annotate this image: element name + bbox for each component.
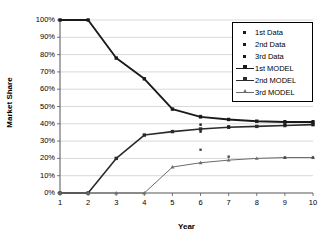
legend-marker-icon: [235, 62, 255, 74]
legend-marker-icon: [235, 26, 255, 38]
legend-item-label: 3rd Data: [255, 52, 284, 61]
y-axis-title: Market Share: [2, 0, 16, 205]
legend-item-label: 1st MODEL: [255, 64, 294, 73]
data-point: [199, 149, 201, 151]
y-tick-label: 60%: [16, 85, 58, 93]
x-tick-label: 1: [50, 198, 70, 207]
legend-item-3rd-data[interactable]: 3rd Data: [235, 50, 309, 62]
series-line: [60, 125, 313, 193]
x-tick-label: 9: [275, 198, 295, 207]
legend-item-label: 2nd MODEL: [255, 76, 296, 85]
y-tick-label: 20%: [16, 154, 58, 162]
data-marker: [255, 120, 258, 123]
y-tick-label: 40%: [16, 120, 58, 128]
legend-item-label: 2nd Data: [255, 40, 285, 49]
legend-item-2nd-model[interactable]: 2nd MODEL: [235, 74, 309, 86]
y-tick-label: 0%: [16, 189, 58, 197]
y-tick-label: 80%: [16, 51, 58, 59]
x-tick-label: 5: [162, 198, 182, 207]
x-axis-tick-labels: 12345678910: [60, 198, 313, 212]
y-tick-label: 30%: [16, 137, 58, 145]
y-tick-label: 10%: [16, 172, 58, 180]
data-point: [312, 120, 314, 122]
legend-item-1st-model[interactable]: 1st MODEL: [235, 62, 309, 74]
data-point: [312, 123, 314, 125]
x-tick-label: 10: [303, 198, 323, 207]
x-tick-label: 8: [247, 198, 267, 207]
data-marker: [171, 107, 174, 110]
data-marker: [143, 133, 146, 136]
x-tick-label: 2: [78, 198, 98, 207]
legend-marker-icon: [235, 74, 255, 86]
data-marker: [115, 56, 118, 59]
x-tick-label: 6: [191, 198, 211, 207]
data-marker: [115, 157, 118, 160]
series-line: [60, 158, 313, 193]
x-tick-label: 3: [106, 198, 126, 207]
legend-marker-icon: [235, 50, 255, 62]
data-point: [284, 123, 286, 125]
x-tick-label: 7: [219, 198, 239, 207]
legend-marker-icon: [235, 86, 255, 98]
data-marker: [199, 127, 202, 130]
data-marker: [171, 130, 174, 133]
data-marker: [86, 18, 89, 21]
data-point: [227, 155, 229, 157]
legend-item-1st-data[interactable]: 1st Data: [235, 26, 309, 38]
y-axis-title-text: Market Share: [5, 77, 14, 127]
legend-item-label: 3rd MODEL: [255, 88, 295, 97]
data-point: [199, 130, 201, 132]
data-point: [284, 120, 286, 122]
data-marker: [143, 77, 146, 80]
data-point: [227, 118, 229, 120]
y-tick-label: 90%: [16, 33, 58, 41]
data-point: [199, 123, 201, 125]
y-tick-label: 50%: [16, 103, 58, 111]
legend-item-2nd-data[interactable]: 2nd Data: [235, 38, 309, 50]
market-share-chart: Market Share 100%90%80%70%60%50%40%30%20…: [0, 0, 330, 242]
data-marker: [58, 18, 61, 21]
legend-item-label: 1st Data: [255, 28, 283, 37]
data-point: [199, 115, 201, 117]
legend-item-3rd-model[interactable]: 3rd MODEL: [235, 86, 309, 98]
legend-marker-icon: [235, 38, 255, 50]
data-marker: [255, 125, 258, 128]
data-point: [284, 156, 286, 158]
x-axis-title: Year: [60, 222, 313, 231]
data-point: [227, 125, 229, 127]
chart-legend: 1st Data2nd Data3rd Data1st MODEL2nd MOD…: [232, 22, 313, 102]
x-tick-label: 4: [134, 198, 154, 207]
y-tick-label: 70%: [16, 68, 58, 76]
y-tick-label: 100%: [16, 16, 58, 24]
data-point: [312, 156, 314, 158]
